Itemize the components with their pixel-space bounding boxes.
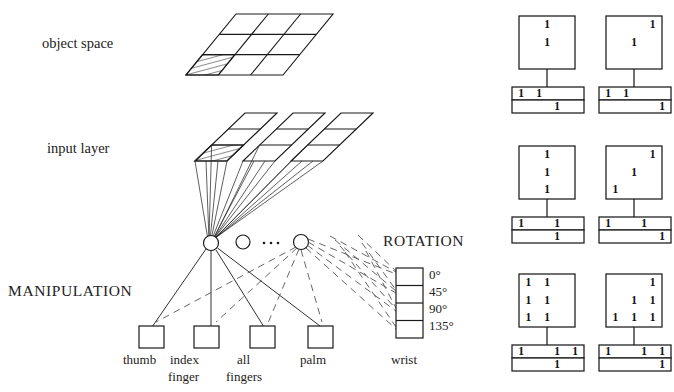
ex-6-bar-top-digit: 1 — [605, 346, 611, 358]
output-box-thumb — [139, 326, 164, 348]
ex-2-grid-digit: 1 — [631, 37, 637, 49]
output-label-fingers: fingers — [226, 370, 262, 384]
ex-4-bar-top-digit: 1 — [605, 218, 611, 230]
ex-1-bar-bottom-digit: 1 — [554, 101, 560, 113]
hidden-to-output-solid — [152, 248, 320, 327]
ex-3-grid-digit: 1 — [544, 149, 550, 161]
ex-5-grid-digit: 1 — [525, 277, 531, 289]
hidden-layer-nodes — [204, 235, 309, 251]
example-3-bar-bottom — [512, 230, 584, 243]
ex-1-bar-top-digit: 1 — [536, 88, 542, 100]
ex-4-bar-bottom-digit: 1 — [659, 231, 665, 243]
ex-5-grid-digit: 1 — [544, 277, 550, 289]
ex-5-bar-top-digit: 1 — [554, 346, 560, 358]
example-1-bar-bottom — [512, 100, 584, 113]
ex-4-grid-digit: 1 — [650, 149, 656, 161]
output-box-palm — [308, 326, 333, 348]
ex-4-grid-digit: 1 — [612, 184, 618, 196]
rotation-label-0: 0° — [429, 268, 441, 282]
ex-6-bar-top-digit: 1 — [641, 346, 647, 358]
ex-3-grid-digit: 1 — [544, 167, 550, 179]
figure-canvas — [0, 0, 674, 392]
ex-6-grid-digit: 1 — [650, 295, 656, 307]
label-object-space: object space — [42, 36, 113, 51]
ex-3-bar-top-digit: 1 — [518, 218, 524, 230]
ex-4-bar-top-digit: 1 — [641, 218, 647, 230]
output-label-index: index — [170, 353, 199, 367]
ex-2-bar-top-digit: 1 — [623, 88, 629, 100]
ex-5-bar-top-digit: 1 — [518, 346, 524, 358]
label-input-layer: input layer — [47, 141, 109, 156]
output-label-wrist: wrist — [391, 353, 417, 367]
rotation-label-90: 90° — [429, 302, 447, 316]
ex-1-grid-digit: 1 — [544, 37, 550, 49]
ex-2-bar-top-digit: 1 — [605, 88, 611, 100]
hidden-node-1 — [204, 236, 219, 251]
ex-5-grid-digit: 1 — [525, 312, 531, 324]
hidden-nodes-ellipsis — [263, 242, 280, 245]
output-box-index-finger — [194, 326, 219, 348]
output-label-palm: palm — [300, 353, 326, 367]
ex-5-grid-digit: 1 — [544, 295, 550, 307]
ex-4-grid-digit: 1 — [631, 167, 637, 179]
example-5-bar-bottom — [512, 358, 584, 371]
ex-6-grid-digit: 1 — [631, 295, 637, 307]
ex-5-grid-digit: 1 — [544, 312, 550, 324]
rotation-label-135: 135° — [429, 319, 454, 333]
output-label-thumb: thumb — [123, 353, 156, 367]
label-manipulation: MANIPULATION — [8, 283, 132, 299]
ex-6-bar-bottom-digit: 1 — [659, 359, 665, 371]
output-box-all-fingers — [250, 326, 275, 348]
ex-3-bar-top-digit: 1 — [554, 218, 560, 230]
ex-5-bar-bottom-digit: 1 — [554, 359, 560, 371]
hidden-node-2 — [236, 235, 250, 249]
ex-3-bar-bottom-digit: 1 — [554, 231, 560, 243]
wrist-rotation-column — [396, 268, 423, 338]
ex-2-grid-digit: 1 — [650, 19, 656, 31]
ex-6-bar-top-digit: 1 — [659, 346, 665, 358]
object-space-grid — [186, 14, 333, 75]
ex-6-grid-digit: 1 — [631, 312, 637, 324]
ex-2-bar-bottom-digit: 1 — [659, 101, 665, 113]
ex-1-bar-top-digit: 1 — [518, 88, 524, 100]
ex-6-grid-digit: 1 — [650, 312, 656, 324]
output-label-all: all — [237, 353, 250, 367]
ex-5-bar-top-digit: 1 — [572, 346, 578, 358]
ex-3-grid-digit: 1 — [544, 184, 550, 196]
ex-5-grid-digit: 1 — [525, 295, 531, 307]
output-unit-boxes — [139, 326, 333, 348]
output-label-finger: finger — [168, 370, 199, 384]
ex-1-grid-digit: 1 — [544, 19, 550, 31]
ex-6-grid-digit: 1 — [612, 312, 618, 324]
label-rotation: ROTATION — [383, 233, 464, 249]
ex-6-grid-digit: 1 — [650, 277, 656, 289]
rotation-label-45: 45° — [429, 285, 447, 299]
